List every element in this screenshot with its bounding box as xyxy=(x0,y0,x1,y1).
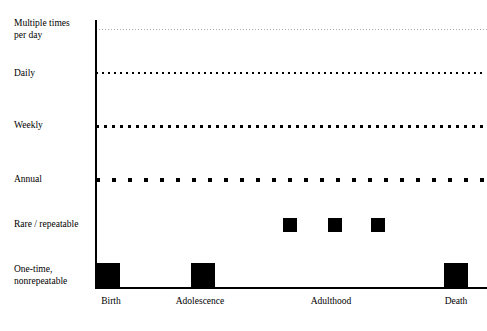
line-dot xyxy=(291,29,292,30)
line-dot xyxy=(296,125,299,128)
line-dot xyxy=(426,29,427,30)
line-dot xyxy=(255,29,256,30)
line-dot xyxy=(344,125,347,128)
event-marker-square xyxy=(444,263,468,287)
y-axis-tick-label: Daily xyxy=(0,68,88,80)
line-dot xyxy=(357,29,358,30)
y-axis-tick-label: Multiple times per day xyxy=(0,18,88,41)
line-dot xyxy=(453,29,454,30)
line-dot xyxy=(270,72,272,74)
line-dot xyxy=(216,29,217,30)
line-dot xyxy=(108,29,109,30)
line-dot xyxy=(318,72,320,74)
line-dot xyxy=(402,72,404,74)
line-dot xyxy=(201,29,202,30)
line-dot xyxy=(102,29,103,30)
x-axis-tick-label: Birth xyxy=(101,295,121,307)
line-dot xyxy=(117,29,118,30)
line-dot xyxy=(224,178,228,182)
line-dot xyxy=(156,29,157,30)
line-dot xyxy=(270,29,271,30)
line-dot xyxy=(300,72,302,74)
line-dot xyxy=(285,29,286,30)
event-marker-square xyxy=(96,263,120,287)
line-dot xyxy=(459,29,460,30)
line-dot xyxy=(186,72,188,74)
line-dot xyxy=(138,72,140,74)
line-dot xyxy=(345,29,346,30)
line-dot xyxy=(200,125,203,128)
line-dot xyxy=(300,29,301,30)
line-dot xyxy=(198,72,200,74)
line-dot xyxy=(408,125,411,128)
line-dot xyxy=(224,125,227,128)
line-dot xyxy=(195,29,196,30)
line-dot xyxy=(228,72,230,74)
line-dot xyxy=(315,29,316,30)
line-dot xyxy=(273,29,274,30)
line-dot xyxy=(420,29,421,30)
line-dot xyxy=(348,29,349,30)
line-dot xyxy=(468,72,470,74)
line-dot xyxy=(240,178,244,182)
line-dot xyxy=(384,178,388,182)
line-dot xyxy=(282,72,284,74)
frequency-timeline-chart: Multiple times per dayDailyWeeklyAnnualR… xyxy=(0,0,487,331)
line-dot xyxy=(165,29,166,30)
line-dot xyxy=(180,72,182,74)
line-dot xyxy=(276,29,277,30)
line-dot xyxy=(141,29,142,30)
line-dot xyxy=(213,29,214,30)
line-dot xyxy=(348,72,350,74)
line-dot xyxy=(184,125,187,128)
line-dot xyxy=(366,72,368,74)
line-dot xyxy=(225,29,226,30)
line-dot xyxy=(144,72,146,74)
line-dot xyxy=(354,72,356,74)
line-dot xyxy=(198,29,199,30)
line-dot xyxy=(408,72,410,74)
line-dot xyxy=(393,29,394,30)
line-dot xyxy=(280,125,283,128)
line-dot xyxy=(480,72,482,74)
y-axis-tick-label: One-time, nonrepeatable xyxy=(0,264,88,287)
line-dot xyxy=(147,29,148,30)
line-dot xyxy=(327,29,328,30)
line-dot xyxy=(189,29,190,30)
line-dot xyxy=(444,72,446,74)
line-dot xyxy=(354,29,355,30)
line-dot xyxy=(321,29,322,30)
line-dot xyxy=(339,29,340,30)
line-dot xyxy=(264,29,265,30)
line-dot xyxy=(396,72,398,74)
line-dot xyxy=(180,29,181,30)
line-dot xyxy=(448,125,451,128)
line-dot xyxy=(312,29,313,30)
line-dot xyxy=(414,29,415,30)
line-dot xyxy=(429,29,430,30)
line-dot xyxy=(282,29,283,30)
line-dot xyxy=(384,29,385,30)
line-dot xyxy=(304,125,307,128)
line-dot xyxy=(150,72,152,74)
line-dot xyxy=(111,29,112,30)
line-dot xyxy=(216,125,219,128)
line-dot xyxy=(232,125,235,128)
line-dot xyxy=(168,29,169,30)
line-dot xyxy=(150,29,151,30)
line-dot xyxy=(352,178,356,182)
line-dot xyxy=(234,72,236,74)
line-dot xyxy=(336,72,338,74)
line-dot xyxy=(435,29,436,30)
line-dot xyxy=(384,72,386,74)
line-dot xyxy=(342,72,344,74)
line-dot xyxy=(416,125,419,128)
line-dot xyxy=(336,125,339,128)
line-dot xyxy=(256,125,259,128)
line-dot xyxy=(204,72,206,74)
line-dot xyxy=(168,125,171,128)
line-dot xyxy=(352,125,355,128)
line-dot xyxy=(411,29,412,30)
line-dot xyxy=(400,178,404,182)
line-dot xyxy=(448,178,452,182)
